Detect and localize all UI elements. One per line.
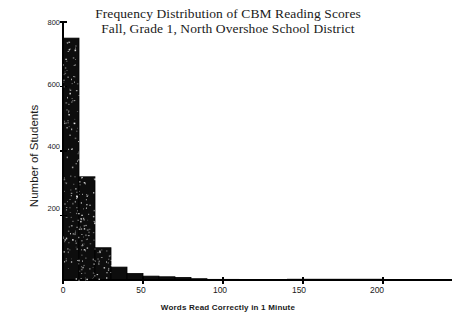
histogram-bar [63, 38, 79, 280]
histogram-bars [63, 38, 383, 280]
chart-figure: Frequency Distribution of CBM Reading Sc… [0, 0, 456, 325]
plot-area [0, 0, 456, 325]
histogram-bar [79, 177, 95, 280]
histogram-bar [111, 267, 127, 280]
histogram-bar [127, 274, 143, 280]
axis-lines [60, 21, 453, 284]
